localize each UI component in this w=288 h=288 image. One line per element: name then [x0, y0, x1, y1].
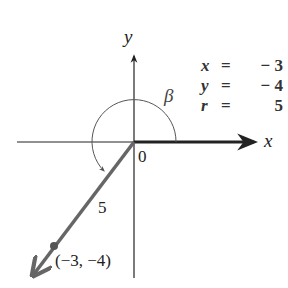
point-label: (−3, −4): [55, 251, 111, 271]
point-marker: [50, 242, 58, 250]
angle-label: β: [164, 85, 173, 107]
equations: x = − 3 y = − 4 r = 5: [201, 56, 283, 116]
equation-r: r = 5: [201, 96, 283, 116]
equation-y: y = − 4: [201, 76, 283, 96]
ray-length-label: 5: [98, 198, 107, 218]
x-axis-label: x: [264, 130, 272, 152]
coordinate-diagram: [0, 0, 288, 288]
origin-label: 0: [138, 147, 147, 167]
equation-x: x = − 3: [201, 56, 283, 76]
y-axis-label: y: [124, 26, 132, 48]
